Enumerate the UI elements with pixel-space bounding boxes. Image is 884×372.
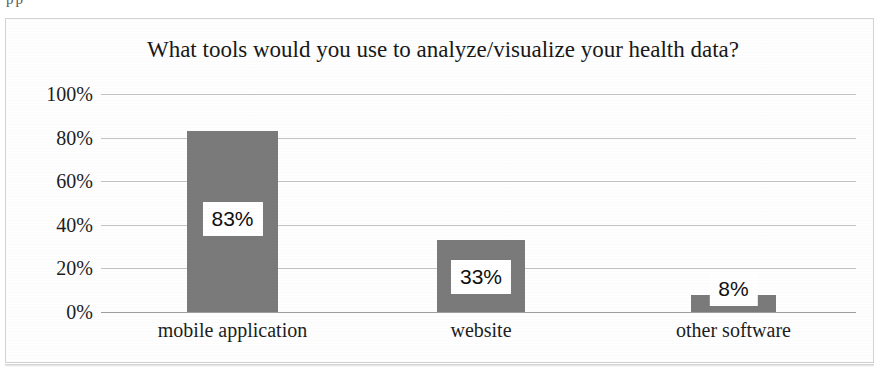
y-tick-label: 100% [7,83,93,106]
y-tick-label: 0% [7,301,93,324]
y-tick-label: 20% [7,257,93,280]
chart-title: What tools would you use to analyze/visu… [1,37,884,63]
y-axis: 100% 80% 60% 40% 20% 0% [1,94,93,312]
bar-series: 83% 33% 8% [101,94,856,312]
axis-baseline [101,312,856,313]
x-tick-label-website: website [387,319,575,342]
y-tick-label: 60% [7,170,93,193]
chart-frame: What tools would you use to analyze/visu… [5,18,874,363]
y-tick-label: 40% [7,213,93,236]
x-tick-label-other-software: other software [641,319,826,342]
bar-value-label-other-software: 8% [709,272,757,306]
page-edge-shadow [5,364,874,367]
bar-slot-mobile-application: 83% [187,94,278,312]
x-axis: mobile application website other softwar… [101,319,856,353]
clipped-text-artifact: pp [6,0,25,8]
x-tick-label-mobile-application: mobile application [137,319,328,342]
bar-value-label-website: 33% [451,260,511,294]
y-tick-label: 80% [7,126,93,149]
bar-slot-other-software: 8% [691,94,776,312]
bar-value-label-mobile-application: 83% [202,202,262,236]
bar-slot-website: 33% [437,94,525,312]
